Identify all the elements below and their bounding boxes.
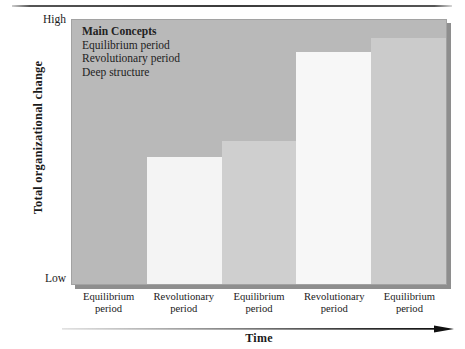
step-bar bbox=[296, 52, 371, 284]
x-axis-label-line: Equilibrium bbox=[71, 291, 146, 303]
step-bar bbox=[222, 141, 297, 284]
time-arrow-icon bbox=[62, 320, 454, 329]
y-axis-tick-low: Low bbox=[30, 272, 66, 284]
x-axis-label-line: Equilibrium bbox=[221, 291, 296, 303]
x-axis-label-line: period bbox=[297, 303, 372, 315]
x-axis-label-line: Revolutionary bbox=[297, 291, 372, 303]
y-axis-title: Total organizational change bbox=[31, 23, 46, 253]
x-axis-label-line: period bbox=[372, 303, 447, 315]
x-axis-label-line: period bbox=[71, 303, 146, 315]
x-axis-label-line: Revolutionary bbox=[146, 291, 221, 303]
header-divider bbox=[12, 5, 452, 7]
main-concepts-heading: Main Concepts bbox=[82, 25, 180, 39]
x-axis-label: Equilibriumperiod bbox=[221, 291, 296, 315]
x-axis-title: Time bbox=[71, 331, 447, 346]
x-axis-label: Equilibriumperiod bbox=[372, 291, 447, 315]
step-bar bbox=[371, 38, 446, 284]
x-axis-label: Revolutionaryperiod bbox=[297, 291, 372, 315]
y-axis-tick-high: High bbox=[30, 13, 66, 25]
x-axis-label-line: period bbox=[221, 303, 296, 315]
x-axis-label-line: Equilibrium bbox=[372, 291, 447, 303]
x-axis-label: Equilibriumperiod bbox=[71, 291, 146, 315]
step-bar bbox=[147, 157, 222, 284]
x-axis-labels: EquilibriumperiodRevolutionaryperiodEqui… bbox=[71, 291, 447, 315]
main-concepts-line-1: Equilibrium period bbox=[82, 39, 180, 53]
main-concepts-line-3: Deep structure bbox=[82, 66, 180, 80]
main-concepts-line-2: Revolutionary period bbox=[82, 52, 180, 66]
x-axis-label: Revolutionaryperiod bbox=[146, 291, 221, 315]
main-concepts-annotation: Main Concepts Equilibrium period Revolut… bbox=[82, 25, 180, 79]
plot-area: Main Concepts Equilibrium period Revolut… bbox=[71, 19, 447, 285]
x-axis-label-line: period bbox=[146, 303, 221, 315]
